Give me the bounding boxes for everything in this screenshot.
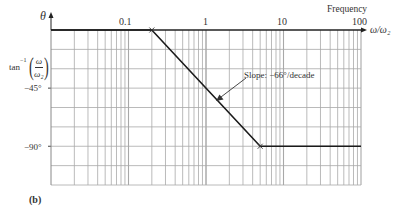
x-axis-title: Frequency [327, 5, 367, 15]
x-tick-label-0.1: 0.1 [119, 17, 132, 27]
y-axis-arrowhead-icon [49, 12, 54, 18]
x-tick-label-1: 1 [203, 17, 208, 27]
bode-phase-plot [0, 0, 400, 211]
annotation-arrow-shaft [221, 78, 246, 97]
x-axis-label: ω/ω₂ [370, 25, 390, 35]
y-tick-label-minus90: −90° [24, 143, 42, 152]
left-paren: ( [29, 54, 34, 80]
y-axis-label: tan −1 ( ω ω₂ ) [9, 51, 50, 83]
fraction-numerator: ω [35, 56, 43, 68]
horizontal-gridlines [48, 49, 361, 185]
y-axis-fraction: ω ω₂ [34, 56, 43, 79]
fraction-denominator: ω₂ [34, 68, 43, 79]
y-axis-symbol: θ [40, 10, 46, 22]
y-axis-label-exponent: −1 [20, 57, 26, 63]
x-tick-label-10: 10 [277, 17, 287, 27]
y-axis-label-func: tan [9, 62, 20, 72]
slope-annotation: Slope: −66°/decade [244, 71, 314, 80]
y-tick-label-minus45: −45° [24, 84, 42, 93]
right-paren: ) [43, 54, 48, 80]
x-tick-label-100: 100 [352, 17, 367, 27]
figure-label: (b) [29, 195, 41, 205]
x-axis-arrowhead-icon [361, 28, 367, 33]
